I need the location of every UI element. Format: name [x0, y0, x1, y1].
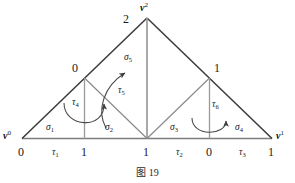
tau-subscript: 4: [75, 101, 78, 108]
vector-superscript: 0: [7, 129, 11, 137]
vertex-mid-left-number: 0: [72, 62, 78, 74]
base-tau-3: τ3: [239, 148, 246, 158]
sigma-subscript: 4: [240, 126, 243, 133]
sigma-subscript: 3: [175, 126, 178, 133]
tau-subscript: 3: [242, 151, 245, 158]
sigma-1-label: σ1: [46, 123, 54, 133]
edge-inner-right-up: [147, 78, 210, 139]
tau-subscript: 5: [121, 89, 124, 96]
sigma-subscript: 5: [129, 56, 132, 63]
sigma-glyph: σ: [105, 122, 110, 132]
tau-4-label: τ4: [72, 98, 79, 108]
sigma-glyph: σ: [170, 122, 175, 132]
tau-5-arrow: [102, 73, 125, 128]
vector-superscript: 2: [144, 1, 148, 9]
vertex-mid-right-number: 1: [214, 62, 220, 74]
tau-5-label: τ5: [118, 86, 125, 96]
figure-19-container: 2 v2 v0 v1 0 1 σ1 σ2 σ3 σ4 σ5 τ4 τ5 τ6 0…: [0, 0, 295, 183]
sigma-2-label: σ2: [105, 123, 113, 133]
edge-inner-left-down: [85, 78, 148, 139]
base-1-right: 1: [268, 146, 274, 158]
vector-superscript: 1: [280, 129, 284, 137]
base-1-left: 1: [81, 146, 87, 158]
sigma-glyph: σ: [124, 52, 129, 62]
vertex-right-vector: v1: [276, 130, 284, 141]
sigma-3-label: σ3: [170, 123, 178, 133]
base-tau-1: τ1: [52, 148, 59, 158]
vertex-apex-vector: v2: [140, 2, 148, 13]
figure-caption: 图 19: [0, 164, 295, 179]
base-0-left: 0: [18, 146, 24, 158]
sigma-glyph: σ: [46, 122, 51, 132]
vertex-apex-number: 2: [123, 13, 129, 25]
sigma-4-label: σ4: [235, 123, 243, 133]
tau-subscript: 2: [179, 151, 182, 158]
base-0-right: 0: [206, 146, 212, 158]
tau-subscript: 1: [55, 151, 58, 158]
sigma-subscript: 2: [110, 126, 113, 133]
base-1-center: 1: [143, 146, 149, 158]
sigma-subscript: 1: [51, 126, 54, 133]
tau-subscript: 6: [215, 103, 218, 110]
sigma-5-label: σ5: [124, 53, 132, 63]
tau-6-label: τ6: [212, 100, 219, 110]
sigma-glyph: σ: [235, 122, 240, 132]
base-tau-2: τ2: [176, 148, 183, 158]
vertex-left-vector: v0: [3, 130, 11, 141]
